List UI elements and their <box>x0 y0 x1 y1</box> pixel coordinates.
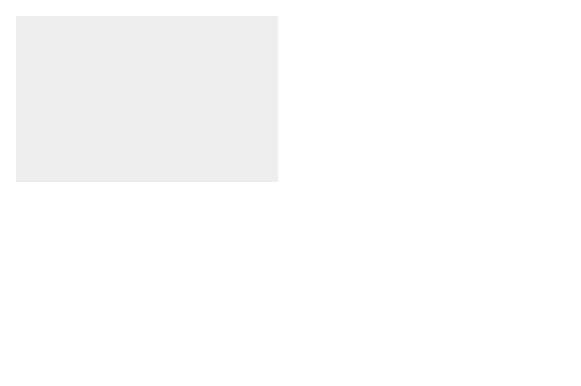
diagram-canvas <box>0 0 581 386</box>
